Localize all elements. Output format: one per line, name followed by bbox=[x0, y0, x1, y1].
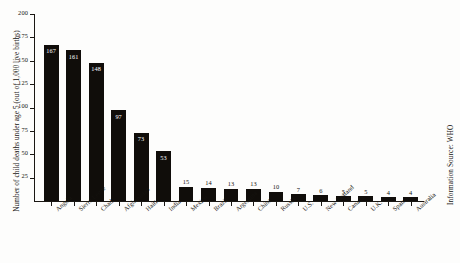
y-axis-tick-label: 25 bbox=[21, 172, 28, 179]
x-axis-tick bbox=[298, 202, 299, 206]
y-axis-tick: 200 bbox=[30, 14, 35, 15]
bar: 6 bbox=[313, 195, 328, 201]
x-axis-category-label: Canada bbox=[346, 207, 351, 212]
x-axis-category-label: Afghanistan bbox=[122, 207, 127, 212]
y-axis-tick-label: 150 bbox=[18, 56, 28, 63]
x-axis-category-label: Chad bbox=[99, 207, 104, 212]
y-axis-tick-label: 200 bbox=[18, 9, 28, 16]
chart-figure: Number of child deaths under age 5 (out … bbox=[0, 0, 460, 263]
y-axis-tick-label: 125 bbox=[18, 79, 28, 86]
x-axis-tick bbox=[51, 202, 52, 206]
x-axis-tick bbox=[388, 202, 389, 206]
y-axis-tick-label: 50 bbox=[21, 149, 28, 156]
bar-value-label: 148 bbox=[89, 65, 104, 72]
bar-value-label: 5 bbox=[355, 188, 376, 195]
y-axis-tick: 25 bbox=[30, 178, 35, 179]
bar-value-label: 161 bbox=[66, 53, 81, 60]
x-axis-tick bbox=[186, 202, 187, 206]
x-axis-tick bbox=[321, 202, 322, 206]
x-axis-tick bbox=[411, 202, 412, 206]
y-axis-tick: 50 bbox=[30, 154, 35, 155]
x-axis-tick bbox=[276, 202, 277, 206]
bar: 53 bbox=[156, 151, 171, 201]
x-axis-tick bbox=[164, 202, 165, 206]
y-axis-tick: 175 bbox=[30, 37, 35, 38]
plot-area: 255075100125150175200 167161148977353151… bbox=[34, 14, 424, 202]
bar-value-label: 4 bbox=[400, 189, 421, 196]
x-axis-tick bbox=[209, 202, 210, 206]
y-axis-tick-label: 75 bbox=[21, 126, 28, 133]
x-axis-tick bbox=[119, 202, 120, 206]
bar-value-label: 6 bbox=[310, 187, 331, 194]
x-axis-category-label: Russia bbox=[279, 207, 284, 212]
x-axis-category-label: Argentina bbox=[234, 207, 239, 212]
x-axis-category-label: India bbox=[167, 207, 172, 212]
bar-value-label: 13 bbox=[221, 180, 242, 187]
y-axis-tick-label: 175 bbox=[18, 32, 28, 39]
y-axis-tick: 75 bbox=[30, 131, 35, 132]
x-axis-category-label: Mexico bbox=[189, 207, 194, 212]
x-axis-tick bbox=[231, 202, 232, 206]
y-axis-tick: 100 bbox=[30, 108, 35, 109]
x-axis-category-label: Brazil bbox=[212, 207, 217, 212]
bar-value-label: 7 bbox=[288, 186, 309, 193]
x-axis-tick bbox=[74, 202, 75, 206]
bar-value-label: 13 bbox=[243, 180, 264, 187]
x-axis-category-label: Haiti bbox=[144, 207, 149, 212]
x-axis-category-label: Sierra Leone bbox=[77, 207, 82, 212]
x-axis-tick bbox=[96, 202, 97, 206]
bar-value-label: 14 bbox=[198, 179, 219, 186]
y-axis-tick: 125 bbox=[30, 84, 35, 85]
bar: 161 bbox=[66, 50, 81, 201]
x-axis-category-label: New Zealand bbox=[324, 207, 329, 212]
bar: 15 bbox=[179, 187, 194, 201]
bar: 97 bbox=[111, 110, 126, 201]
y-axis-title: Number of child deaths under age 5 (out … bbox=[10, 16, 24, 226]
x-axis-tick bbox=[343, 202, 344, 206]
source-note: Information Source: WHO bbox=[447, 125, 455, 205]
x-axis-tick bbox=[366, 202, 367, 206]
x-axis-category-label: Spain bbox=[391, 207, 396, 212]
bar-value-label: 4 bbox=[378, 189, 399, 196]
bar: 4 bbox=[381, 197, 396, 201]
bar-value-label: 10 bbox=[266, 183, 287, 190]
x-axis-tick bbox=[141, 202, 142, 206]
x-axis-category-label: U.K. bbox=[369, 207, 374, 212]
bar-value-label: 73 bbox=[134, 135, 149, 142]
bar-value-label: 167 bbox=[44, 47, 59, 54]
y-axis-tick-label: 100 bbox=[18, 102, 28, 109]
bar-value-label: 53 bbox=[156, 154, 171, 161]
bar-value-label: 15 bbox=[176, 178, 197, 185]
bar-value-label: 97 bbox=[111, 113, 126, 120]
x-axis-category-label: China bbox=[256, 207, 261, 212]
y-axis-tick: 150 bbox=[30, 61, 35, 62]
x-axis-tick bbox=[253, 202, 254, 206]
bar: 148 bbox=[89, 63, 104, 201]
x-axis-category-label: Angola bbox=[54, 207, 59, 212]
bar: 167 bbox=[44, 45, 59, 201]
x-axis-category-label: Australia bbox=[414, 207, 419, 212]
x-axis-category-label: U.S. bbox=[301, 207, 306, 212]
